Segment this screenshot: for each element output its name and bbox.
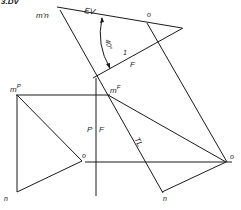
left-mp-o-edge [17,95,82,161]
label-o-top: o [147,11,151,18]
label-o-right: o [230,153,234,160]
fold-line-1-f [93,28,183,78]
label-n-right: n [163,195,167,202]
label-mp: mP [10,83,21,94]
label-angle-40: 40° [104,38,114,50]
left-n-o-edge [17,161,82,192]
arc-arrow-top [100,17,104,23]
mf-o-line [108,95,226,162]
label-mf: mF [110,84,121,95]
label-m-prime-n: m'n [36,11,49,20]
figure-title: 3.DV [1,0,19,6]
label-n-left: n [4,195,8,202]
o-projector-line [147,23,227,162]
label-o-left: o [82,152,86,159]
n-o-line [162,162,226,192]
label-fold-f-top: F [130,60,136,69]
edge-view-line [57,7,182,28]
label-fold-f: F [99,125,105,134]
descriptive-geometry-diagram: 3.DV m'n EV o 40° 1 F mP mF P F o TL o n… [0,0,241,210]
arc-arrow-bottom [106,63,110,69]
label-fold-1: 1 [123,49,127,56]
label-tl: TL [132,136,144,148]
label-ev: EV [84,6,97,17]
label-fold-p: P [87,125,93,134]
